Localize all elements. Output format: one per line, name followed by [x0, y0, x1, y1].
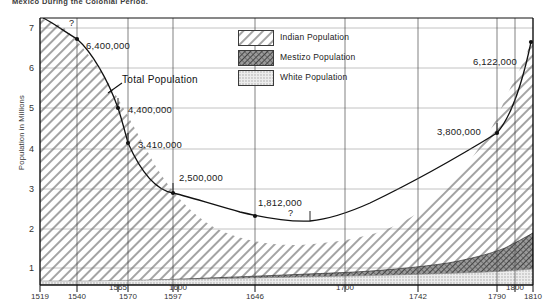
- x-tick-1790: 1790: [481, 292, 513, 301]
- label-question-1519: ?: [69, 18, 74, 28]
- point-1540: [75, 37, 79, 41]
- x-tick-1570: 1570: [112, 292, 144, 301]
- point-1790: [495, 131, 499, 135]
- population-chart: Mexico During the Colonial Period. Popul…: [0, 0, 546, 304]
- legend-label-indian: Indian Population: [280, 32, 349, 42]
- label-6400000: 6,400,000: [86, 40, 130, 51]
- label-3800000: 3,800,000: [437, 126, 481, 137]
- label-4400000: 4,400,000: [128, 104, 172, 115]
- x-tick-1810: 1810: [517, 292, 546, 301]
- x-tick-1519: 1519: [24, 292, 56, 301]
- point-1565: [116, 106, 120, 110]
- legend-swatch-white: [238, 70, 274, 86]
- x-tick-1646: 1646: [239, 292, 271, 301]
- x-tick-1700: 1700: [329, 283, 361, 292]
- point-1597: [171, 191, 175, 195]
- x-tick-1800: 1800: [499, 283, 531, 292]
- x-tick-1597: 1597: [157, 292, 189, 301]
- legend-swatch-mestizo: [238, 50, 274, 66]
- legend-label-mestizo: Mestizo Population: [280, 52, 355, 62]
- label-3410000: 3,410,000: [138, 139, 182, 150]
- label-2500000: 2,500,000: [179, 172, 223, 183]
- point-1646: [253, 214, 257, 218]
- x-tick-1565: 1565: [102, 283, 134, 292]
- x-tick-1600: 1600: [162, 283, 194, 292]
- total-population-annotation: Total Population: [122, 74, 198, 85]
- legend-label-white: White Population: [280, 72, 347, 82]
- label-question-1646: ?: [288, 208, 293, 218]
- x-tick-1742: 1742: [402, 292, 434, 301]
- label-1812000: 1,812,000: [258, 197, 302, 208]
- x-tick-1540: 1540: [61, 292, 93, 301]
- label-6122000: 6,122,000: [473, 56, 517, 67]
- legend-swatch-indian: [238, 30, 274, 46]
- point-1570: [126, 141, 130, 145]
